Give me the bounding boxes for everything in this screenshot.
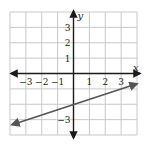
- x-tick-label: −1: [51, 77, 64, 87]
- x-tick-label: −2: [35, 77, 48, 87]
- y-tick-label: 1: [65, 54, 71, 64]
- x-tick-label: 3: [118, 77, 124, 87]
- x-tick-label: 2: [102, 77, 108, 87]
- y-tick-label: 2: [65, 38, 71, 48]
- x-tick-label: −3: [19, 77, 33, 87]
- y-tick-label: −3: [57, 115, 71, 125]
- x-axis-label: x: [133, 62, 139, 73]
- x-tick-label: 1: [87, 77, 93, 87]
- y-tick-label: 3: [65, 23, 71, 33]
- coordinate-plane-graph: −3−2−1123321−3 x y: [0, 0, 145, 144]
- y-axis-label: y: [77, 10, 84, 21]
